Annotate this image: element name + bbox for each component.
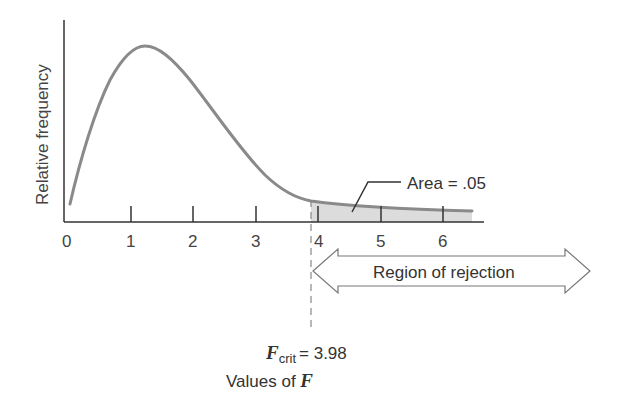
x-axis-label: Values of F	[226, 370, 313, 391]
x-tick-label-2: 2	[188, 232, 197, 251]
f-symbol: F	[265, 342, 279, 363]
area-label: Area = .05	[407, 174, 486, 193]
critical-value-label: Fcrit= 3.98	[265, 342, 347, 366]
x-axis-label-var: F	[299, 370, 313, 391]
x-axis-label-prefix: Values of	[226, 372, 300, 391]
x-tick-label-0: 0	[62, 232, 71, 251]
crit-subscript: crit	[279, 351, 297, 366]
x-tick-label-3: 3	[251, 232, 260, 251]
x-tick-label-5: 5	[376, 232, 385, 251]
y-axis-label: Relative frequency	[33, 64, 52, 205]
x-tick-label-4: 4	[314, 232, 323, 251]
crit-value: = 3.98	[299, 344, 347, 363]
x-tick-label-1: 1	[126, 232, 135, 251]
rejection-region-label: Region of rejection	[373, 263, 515, 282]
f-distribution-chart: 0 1 2 3 4 5 6 Relative frequency Area = …	[0, 0, 624, 398]
x-tick-label-6: 6	[438, 232, 447, 251]
